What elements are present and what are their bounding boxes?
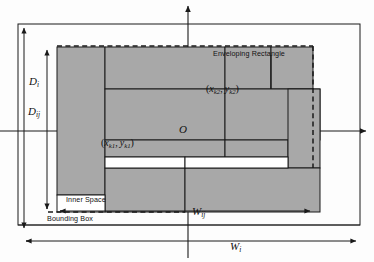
item-rect-left-tall <box>57 47 105 195</box>
label-coordinate-k2: (xk2, yk2) <box>206 84 239 96</box>
inner-space-gap-b <box>185 157 288 168</box>
label-dimension-depth-inner: Dij <box>28 106 40 119</box>
item-rect-band3-mid <box>225 140 288 157</box>
dim-Wij-sub: ij <box>201 210 205 219</box>
label-dimension-width-outer: Wi <box>230 241 241 254</box>
item-rect-bottom-left <box>105 168 185 212</box>
dim-Wi-var: W <box>230 240 239 252</box>
coord-k1-y-sub: k1 <box>124 142 130 149</box>
dim-Di-sub: i <box>37 80 39 89</box>
label-enveloping-rectangle: Enveloping Rectangle <box>213 50 285 57</box>
diagram-canvas: Enveloping Rectangle Inner Space Boundin… <box>0 0 374 262</box>
dim-Dij-var: D <box>28 105 36 117</box>
dim-Wi-sub: i <box>239 245 241 254</box>
coord-k2-x-sub: k2 <box>214 88 220 95</box>
label-inner-space: Inner Space <box>66 196 106 203</box>
item-rect-right-tall <box>288 89 320 168</box>
label-coordinate-k1: (xk1, yk1) <box>101 138 134 150</box>
label-dimension-depth-outer: Di <box>29 76 39 89</box>
item-rectangles <box>57 47 320 212</box>
dim-Dij-sub: ij <box>36 110 40 119</box>
dim-Wij-var: W <box>192 205 201 217</box>
dim-Di-var: D <box>29 75 37 87</box>
label-bounding-box: Bounding Box <box>47 215 93 222</box>
label-origin: O <box>179 124 187 135</box>
item-rect-band2-left <box>105 89 225 140</box>
coord-k2-y-sub: k2 <box>229 88 235 95</box>
label-dimension-width-inner: Wij <box>192 206 205 219</box>
inner-space-gap-a <box>105 157 185 168</box>
coord-k1-x-sub: k1 <box>109 142 115 149</box>
